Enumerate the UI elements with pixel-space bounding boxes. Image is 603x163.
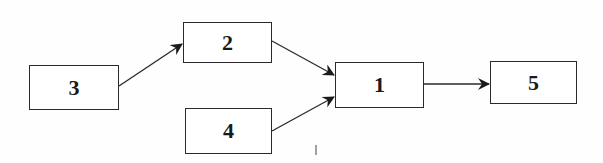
- node-4: 4: [185, 108, 272, 154]
- node-label: 3: [69, 75, 80, 101]
- node-label: 5: [528, 70, 539, 96]
- flow-diagram: 3 2 4 1 5: [0, 0, 603, 163]
- node-3: 3: [29, 65, 119, 110]
- edge-4-to-1: [272, 97, 334, 131]
- edge-2-to-1: [272, 41, 334, 75]
- node-label: 2: [222, 30, 233, 56]
- node-2: 2: [183, 22, 272, 63]
- node-label: 1: [374, 72, 385, 98]
- node-1: 1: [335, 62, 424, 108]
- edge-3-to-2: [119, 44, 182, 86]
- node-5: 5: [490, 61, 577, 104]
- node-label: 4: [223, 118, 234, 144]
